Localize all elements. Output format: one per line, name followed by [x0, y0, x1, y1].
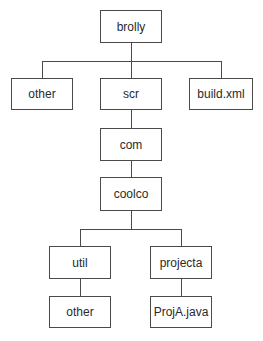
node-brolly: brolly: [100, 10, 162, 43]
connector-util-other: [80, 279, 81, 296]
node-projecta: projecta: [150, 246, 212, 279]
node-util: util: [49, 246, 111, 279]
connector-level4-bar: [80, 229, 182, 230]
node-label: com: [120, 138, 143, 152]
node-label: projecta: [160, 256, 203, 270]
node-label: coolco: [114, 187, 149, 201]
node-other-top: other: [11, 78, 73, 110]
node-proja-java: ProjA.java: [150, 296, 212, 328]
connector-coolco-down: [131, 211, 132, 229]
connector-to-other-top: [42, 61, 43, 78]
connector-com-coolco: [131, 161, 132, 177]
connector-scr-com: [131, 110, 132, 128]
node-label: other: [66, 305, 93, 319]
connector-to-util: [80, 229, 81, 246]
connector-to-projecta: [181, 229, 182, 246]
connector-level1-bar: [42, 61, 222, 62]
node-label: other: [28, 87, 55, 101]
node-com: com: [100, 128, 162, 161]
node-scr: scr: [100, 78, 162, 110]
node-label: brolly: [117, 20, 146, 34]
connector-to-build-xml: [221, 61, 222, 78]
node-label: build.xml: [197, 87, 244, 101]
node-coolco: coolco: [100, 177, 162, 211]
node-label: ProjA.java: [154, 305, 209, 319]
node-label: scr: [123, 87, 139, 101]
connector-projecta-proja: [181, 279, 182, 296]
node-label: util: [72, 256, 87, 270]
connector-brolly-down: [131, 43, 132, 61]
node-other-util: other: [49, 296, 111, 328]
node-build-xml: build.xml: [189, 78, 253, 110]
connector-to-scr: [131, 61, 132, 78]
